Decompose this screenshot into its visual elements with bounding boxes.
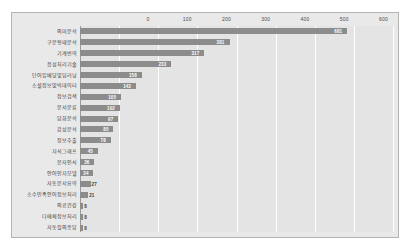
bar-value-label: 45 xyxy=(88,149,93,154)
bar-track: 158 xyxy=(80,70,393,81)
bar-value-label: 143 xyxy=(123,83,131,88)
bar-row: 기계번역317 xyxy=(12,48,393,59)
bar-row: 담화분석97 xyxy=(12,113,393,124)
bar-row: 단어임베딩및딥러닝158 xyxy=(12,70,393,81)
bar[interactable] xyxy=(80,39,230,45)
bar-track: 143 xyxy=(80,80,393,91)
bar-row: 감성분석85 xyxy=(12,124,393,135)
bar-track: 8 xyxy=(80,200,393,211)
category-label: 의료건강 xyxy=(12,203,77,208)
category-label: 구문형태분석 xyxy=(12,40,77,45)
bar-track: 21 xyxy=(80,189,393,200)
category-label: 문자인식 xyxy=(12,160,77,165)
bar-row: 소수민족언어정보처리21 xyxy=(12,189,393,200)
category-label: 음성처리기술 xyxy=(12,62,77,67)
category-label: 감성분석 xyxy=(12,127,77,132)
bar-row: 자동문서요약27 xyxy=(12,179,393,190)
x-tick-label: 100 xyxy=(183,16,192,22)
bar-track: 85 xyxy=(80,124,393,135)
bar-value-label: 381 xyxy=(217,40,225,45)
bar-value-label: 681 xyxy=(334,29,342,34)
bar-row: 구문형태분석381 xyxy=(12,37,393,48)
x-tick-label: 500 xyxy=(340,16,349,22)
gridline-800 xyxy=(393,26,394,232)
bar-track: 381 xyxy=(80,37,393,48)
bar-track: 105 xyxy=(80,91,393,102)
category-label: 담화분석 xyxy=(12,116,77,121)
bar-rows: 의미분석681구문형태분석381기계번역317음성처리기술233단어임베딩및딥러… xyxy=(12,26,393,232)
bar-row: 정보검색105 xyxy=(12,91,393,102)
bar[interactable] xyxy=(80,192,88,198)
bar-value-label: 158 xyxy=(129,73,137,78)
category-label: 의미분석 xyxy=(12,29,77,34)
bar-track: 8 xyxy=(80,211,393,222)
x-tick-label: 600 xyxy=(379,16,388,22)
bar[interactable] xyxy=(80,214,83,220)
bar-row: 문서분류102 xyxy=(12,102,393,113)
category-label: 소셜정보및빅데이터 xyxy=(12,83,77,88)
bar[interactable] xyxy=(80,137,111,143)
bar-track: 36 xyxy=(80,157,393,168)
bar-track: 102 xyxy=(80,102,393,113)
bar-row: 언어인지모델34 xyxy=(12,168,393,179)
x-tick-label: 200 xyxy=(222,16,231,22)
category-label: 소수민족언어정보처리 xyxy=(12,192,77,197)
bar-value-label: 102 xyxy=(107,105,115,110)
bar-value-label: 105 xyxy=(108,94,116,99)
bar-value-label: 233 xyxy=(158,62,166,67)
category-label: 문서분류 xyxy=(12,105,77,110)
bar[interactable] xyxy=(80,203,83,209)
bar-chart: 0100200300400500600700800 의미분석681구문형태분석3… xyxy=(0,0,410,251)
x-axis-tick-labels: 0100200300400500600700800 xyxy=(80,13,393,26)
category-label: 정보검색 xyxy=(12,94,77,99)
bar[interactable] xyxy=(80,225,83,231)
x-tick-label: 300 xyxy=(261,16,270,22)
category-label: 언어인지모델 xyxy=(12,171,77,176)
bar-value-label: 27 xyxy=(92,181,97,186)
bar-track: 45 xyxy=(80,146,393,157)
category-label: 자동질의응답 xyxy=(12,225,77,230)
category-label: 자동문서요약 xyxy=(12,181,77,186)
bar-row: 정보추출78 xyxy=(12,135,393,146)
bar-value-label: 8 xyxy=(84,203,87,208)
bar-track: 34 xyxy=(80,168,393,179)
bar-value-label: 34 xyxy=(83,171,88,176)
bar[interactable] xyxy=(80,28,347,34)
bar-value-label: 36 xyxy=(84,160,89,165)
category-label: 기계번역 xyxy=(12,51,77,56)
chart-frame: 0100200300400500600700800 의미분석681구문형태분석3… xyxy=(11,12,399,238)
x-tick-label: 400 xyxy=(301,16,310,22)
bar-row: 자동질의응답8 xyxy=(12,222,393,233)
x-tick-label: 0 xyxy=(147,16,150,22)
bar-track: 681 xyxy=(80,26,393,37)
bar-value-label: 85 xyxy=(103,127,108,132)
bar[interactable] xyxy=(80,181,91,187)
bar-value-label: 8 xyxy=(84,214,87,219)
bar-track: 78 xyxy=(80,135,393,146)
bar-track: 27 xyxy=(80,179,393,190)
category-label: 단어임베딩및딥러닝 xyxy=(12,73,77,78)
bar-row: 의미분석681 xyxy=(12,26,393,37)
bar-row: 다매체정보처리8 xyxy=(12,211,393,222)
bar-value-label: 21 xyxy=(89,192,94,197)
bar-value-label: 97 xyxy=(108,116,113,121)
category-label: 다매체정보처리 xyxy=(12,214,77,219)
bar-row: 음성처리기술233 xyxy=(12,59,393,70)
bar-track: 233 xyxy=(80,59,393,70)
bar-row: 지식그래프45 xyxy=(12,146,393,157)
bar-track: 8 xyxy=(80,222,393,233)
bar-value-label: 78 xyxy=(101,138,106,143)
bar-track: 317 xyxy=(80,48,393,59)
bar-row: 소셜정보및빅데이터143 xyxy=(12,80,393,91)
bar-row: 문자인식36 xyxy=(12,157,393,168)
bar[interactable] xyxy=(80,50,204,56)
bar-track: 97 xyxy=(80,113,393,124)
bar-row: 의료건강8 xyxy=(12,200,393,211)
category-label: 정보추출 xyxy=(12,138,77,143)
bar-value-label: 317 xyxy=(191,51,199,56)
bar-value-label: 8 xyxy=(84,225,87,230)
category-label: 지식그래프 xyxy=(12,149,77,154)
